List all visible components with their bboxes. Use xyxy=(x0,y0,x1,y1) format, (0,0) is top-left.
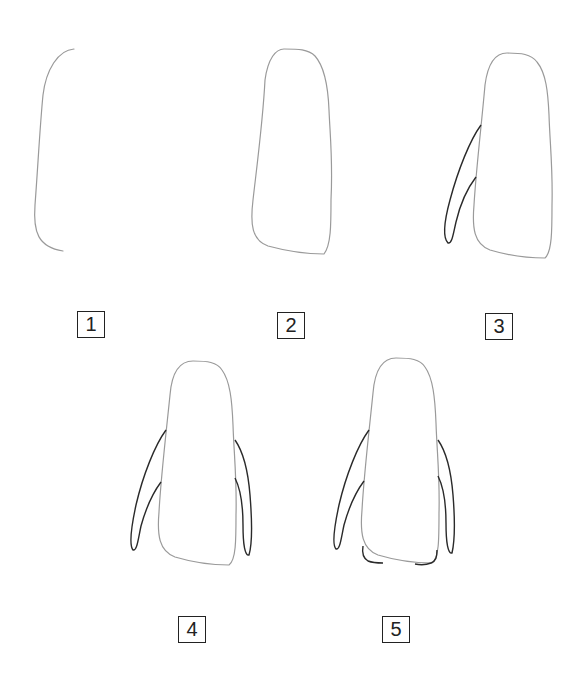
step-1-drawing xyxy=(35,49,74,251)
step-label-5: 5 xyxy=(382,616,410,643)
step-label-3: 3 xyxy=(485,313,513,340)
left-foot xyxy=(363,546,383,563)
step-label-1: 1 xyxy=(77,311,105,338)
step-2-drawing xyxy=(252,49,332,254)
step-number: 2 xyxy=(285,314,296,337)
step-number: 3 xyxy=(493,315,504,338)
step-number: 5 xyxy=(390,618,401,641)
step-5-drawing xyxy=(334,358,455,565)
step-label-2: 2 xyxy=(277,312,305,339)
step-number: 4 xyxy=(186,618,197,641)
step-label-4: 4 xyxy=(178,616,206,643)
step-number: 1 xyxy=(85,313,96,336)
step-4-drawing xyxy=(131,361,252,565)
step-3-drawing xyxy=(445,53,552,258)
